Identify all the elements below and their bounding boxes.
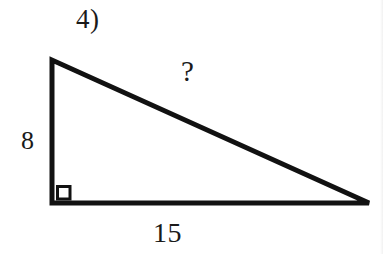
triangle-outline xyxy=(52,60,369,203)
geometry-figure: 4) 8 ? 15 xyxy=(0,0,383,254)
horizontal-leg-length-label: 15 xyxy=(153,219,182,247)
right-angle-marker-icon xyxy=(58,187,71,200)
hypotenuse-taper-accent xyxy=(54,62,367,202)
vertical-leg-length-label: 8 xyxy=(21,128,34,154)
right-triangle-drawing xyxy=(0,0,383,254)
problem-number-label: 4) xyxy=(76,6,100,33)
hypotenuse-unknown-label: ? xyxy=(181,57,194,86)
